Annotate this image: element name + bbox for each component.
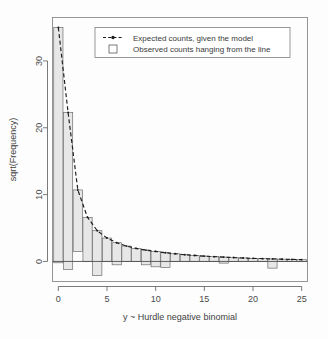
- expected-point: [116, 242, 118, 244]
- observed-bar: [151, 251, 160, 266]
- expected-point: [164, 252, 166, 254]
- observed-bar: [268, 259, 277, 268]
- expected-point: [174, 253, 176, 255]
- legend-label-observed: Observed counts hanging from the line: [133, 45, 271, 54]
- expected-curve-path: [58, 28, 301, 260]
- legend-label-expected: Expected counts, given the model: [133, 34, 253, 43]
- expected-point: [281, 258, 283, 260]
- expected-point: [262, 258, 264, 260]
- expected-point: [155, 250, 157, 252]
- legend-key-observed-rect: [109, 45, 117, 53]
- expected-point: [301, 259, 303, 261]
- x-tick-label: 25: [297, 294, 307, 304]
- observed-bar: [102, 238, 111, 261]
- x-axis: 0510152025: [56, 287, 307, 304]
- x-tick-label: 10: [151, 294, 161, 304]
- observed-bar: [161, 253, 170, 268]
- observed-bar: [141, 250, 150, 265]
- expected-point: [213, 256, 215, 258]
- expected-counts-line: [57, 27, 302, 261]
- expected-point: [145, 249, 147, 251]
- observed-bar: [83, 217, 92, 261]
- expected-point: [242, 257, 244, 259]
- expected-point: [252, 257, 254, 259]
- expected-point: [77, 189, 79, 191]
- expected-point: [291, 258, 293, 260]
- y-tick-label: 30: [35, 56, 45, 66]
- y-axis-title: sqrt(Frequency): [8, 118, 18, 182]
- expected-point: [106, 237, 108, 239]
- y-tick-label: 20: [35, 123, 45, 133]
- x-tick-label: 15: [199, 294, 209, 304]
- y-axis: 0102030: [35, 56, 48, 264]
- y-tick-label: 0: [35, 259, 45, 264]
- expected-point: [57, 27, 59, 29]
- legend-key-expected-point: [111, 36, 114, 39]
- observed-bar: [54, 28, 63, 263]
- expected-point: [233, 257, 235, 259]
- rootogram-plot-container: 0510152025 0102030 y ~ Hurdle negative b…: [0, 0, 328, 339]
- expected-point: [67, 111, 69, 113]
- x-tick-label: 0: [56, 294, 61, 304]
- observed-count-bars: [54, 28, 307, 276]
- observed-bar: [171, 254, 180, 262]
- expected-point: [135, 247, 137, 249]
- expected-point: [184, 254, 186, 256]
- expected-point: [87, 216, 89, 218]
- observed-bar: [122, 246, 131, 261]
- observed-bar: [93, 231, 102, 276]
- observed-bar: [180, 255, 189, 262]
- expected-point: [203, 255, 205, 257]
- x-axis-title: y ~ Hurdle negative binomial: [123, 312, 237, 322]
- x-tick-label: 20: [248, 294, 258, 304]
- x-tick-label: 5: [104, 294, 109, 304]
- expected-point: [272, 258, 274, 260]
- expected-point: [126, 245, 128, 247]
- observed-bar: [132, 248, 141, 261]
- expected-point: [194, 254, 196, 256]
- rootogram-chart: 0510152025 0102030 y ~ Hurdle negative b…: [0, 0, 328, 339]
- y-tick-label: 10: [35, 190, 45, 200]
- expected-point: [223, 256, 225, 258]
- expected-point: [96, 230, 98, 232]
- chart-legend: Expected counts, given the model Observe…: [95, 28, 290, 58]
